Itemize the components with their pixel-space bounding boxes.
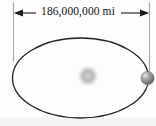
planet-icon: [141, 71, 154, 84]
planet-highlight: [144, 74, 147, 77]
sun-icon: [79, 67, 98, 86]
sun-glow-group: [79, 67, 98, 86]
diagram-canvas: [0, 0, 156, 126]
page-edge-tint: [0, 118, 156, 126]
planet-group: [141, 71, 155, 86]
dimension-label: 186,000,000 mi: [0, 4, 156, 18]
orbit-diameter-diagram: 186,000,000 mi: [0, 0, 156, 126]
